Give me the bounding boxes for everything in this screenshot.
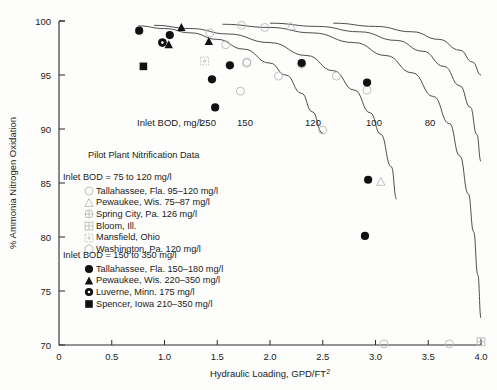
y-tick-label: 75 — [40, 286, 51, 297]
legend-item-label: Bloom, Ill. — [96, 221, 136, 231]
marker-filled-circle-dot — [85, 288, 93, 296]
marker-open-triangle — [287, 22, 295, 30]
marker-open-circle — [274, 72, 282, 80]
filled-circle-dot-icon — [82, 286, 96, 297]
marker-filled-circle — [364, 176, 372, 184]
marker-filled-circle — [211, 103, 219, 111]
open-triangle-icon — [82, 197, 96, 208]
marker-filled-circle — [298, 59, 306, 67]
legend-group2-list: Tallahassee, Fla. 150–180 mg/lPewaukee, … — [82, 263, 223, 309]
marker-open-circle — [445, 340, 453, 348]
open-plus-circle-icon — [82, 208, 96, 219]
x-tick-label: 0.5 — [105, 351, 118, 362]
legend-item: Spring City, Pa. 126 mg/l — [82, 208, 218, 220]
marker-filled-triangle — [177, 23, 185, 31]
curve-label-120: 120 — [305, 117, 321, 128]
legend-item: Bloom, Ill. — [82, 220, 218, 232]
filled-circle-icon — [82, 263, 96, 274]
x-tick-label: 1.0 — [158, 351, 171, 362]
y-tick-label: 90 — [40, 124, 51, 135]
marker-filled-circle — [361, 232, 369, 240]
legend-group1-header: Inlet BOD = 75 to 120 mg/l — [63, 172, 172, 182]
legend-item: Spencer, Iowa 210–350 mg/l — [82, 298, 223, 310]
legend-item-label: Pewaukee, Wis. 220–350 mg/l — [96, 275, 220, 285]
open-grid-square-icon — [82, 220, 96, 231]
marker-open-circle — [332, 72, 340, 80]
marker-open-triangle — [85, 198, 93, 206]
marker-filled-circle — [166, 31, 174, 39]
marker-filled-square — [140, 63, 148, 71]
marker-filled-triangle — [85, 276, 93, 284]
marker-filled-circle — [135, 27, 143, 35]
x-tick-label: 2.0 — [263, 351, 276, 362]
curve-label-100: 100 — [366, 117, 382, 128]
curve-labels-group: Inlet BOD, mg/l25015012010080 — [137, 117, 435, 128]
legend-group1-list: Tallahassee, Fla. 95–120 mg/lPewaukee, W… — [82, 185, 218, 255]
bod-curve-100 — [270, 23, 481, 161]
bod-curve-150 — [154, 25, 397, 199]
marker-filled-triangle — [205, 37, 213, 45]
marker-open-triangle — [377, 178, 385, 186]
curve-label-80: 80 — [425, 117, 436, 128]
curve-label-150: 150 — [237, 117, 253, 128]
legend-item: Luverne, Minn. 175 mg/l — [82, 286, 223, 298]
marker-filled-circle — [226, 61, 234, 69]
legend-group2-header: Inlet BOD = 150 to 350 mg/l — [63, 250, 177, 260]
marker-open-dotted-square — [85, 234, 93, 242]
filled-triangle-icon — [82, 275, 96, 286]
legend-item-label: Tallahassee, Fla. 150–180 mg/l — [96, 264, 223, 274]
legend-item-label: Spring City, Pa. 126 mg/l — [96, 209, 197, 219]
marker-filled-circle — [208, 75, 216, 83]
open-circle-icon — [82, 185, 96, 196]
filled-square-icon — [82, 298, 96, 309]
open-dotted-square-icon — [82, 232, 96, 243]
legend-item-label: Pewaukee, Wis. 75–87 mg/l — [96, 197, 210, 207]
marker-open-grid-square — [85, 222, 93, 230]
bod-curve-80 — [333, 23, 481, 75]
y-tick-label: 85 — [40, 178, 51, 189]
x-tick-label: 3.5 — [422, 351, 435, 362]
marker-filled-square — [85, 300, 93, 308]
x-axis-title: Hydraulic Loading, GPD/FT2 — [210, 368, 330, 380]
curve-label-250: 250 — [200, 117, 216, 128]
y-axis-title: % Ammonia Nitrogen Oxidation — [7, 117, 18, 249]
marker-open-circle — [222, 41, 230, 49]
marker-filled-circle — [85, 265, 93, 273]
bod-curve-120 — [223, 24, 481, 318]
legend-item: Tallahassee, Fla. 95–120 mg/l — [82, 185, 218, 197]
curve-label-prefix: Inlet BOD, mg/l — [137, 117, 201, 128]
marker-open-plus-circle — [85, 210, 93, 218]
legend-title: Pilot Plant Nitrification Data — [88, 150, 199, 160]
y-tick-label: 80 — [40, 232, 51, 243]
legend-item: Mansfield, Ohio — [82, 231, 218, 243]
legend-item-label: Mansfield, Ohio — [96, 232, 160, 242]
marker-open-circle — [236, 87, 244, 95]
x-tick-label: 4.0 — [474, 351, 487, 362]
chart-root: 70758085909510000.51.01.52.02.53.03.54.0… — [0, 0, 497, 390]
x-tick-label: 0 — [56, 351, 61, 362]
marker-filled-circle — [363, 78, 371, 86]
marker-filled-circle-dot — [158, 39, 166, 47]
x-tick-label: 2.5 — [316, 351, 329, 362]
legend-item-label: Spencer, Iowa 210–350 mg/l — [96, 299, 212, 309]
x-tick-label: 3.0 — [369, 351, 382, 362]
legend-item-label: Luverne, Minn. 175 mg/l — [96, 287, 195, 297]
y-tick-label: 95 — [40, 70, 51, 81]
legend-item-label: Tallahassee, Fla. 95–120 mg/l — [96, 186, 218, 196]
marker-open-circle — [380, 340, 388, 348]
y-tick-label: 70 — [40, 340, 51, 351]
y-tick-label: 100 — [35, 16, 51, 27]
marker-open-circle — [363, 86, 371, 94]
marker-open-circle — [206, 29, 214, 37]
chart-plot-area: 70758085909510000.51.01.52.02.53.03.54.0… — [0, 0, 497, 390]
legend-item: Tallahassee, Fla. 150–180 mg/l — [82, 263, 223, 275]
marker-open-circle — [85, 187, 93, 195]
legend-item: Pewaukee, Wis. 75–87 mg/l — [82, 197, 218, 209]
marker-open-dotted-square — [201, 57, 209, 65]
legend-item: Pewaukee, Wis. 220–350 mg/l — [82, 275, 223, 287]
x-tick-label: 1.5 — [211, 351, 224, 362]
